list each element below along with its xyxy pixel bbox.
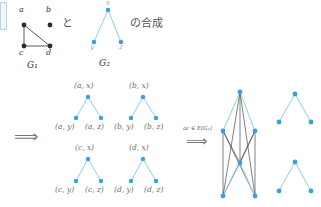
- copy-b-top-label: (b, x): [129, 82, 149, 90]
- copy-a-right-label: (a, z): [85, 123, 104, 131]
- result-vertex-dz: [309, 189, 314, 194]
- g1-label-b: b: [46, 6, 51, 14]
- caption-composition: の合成: [130, 18, 163, 29]
- result-graph: [221, 90, 314, 199]
- result-vertex-cz: [253, 194, 258, 199]
- g2-edge-x-z: [108, 10, 121, 42]
- copy-b-edge-x-z: [143, 97, 156, 118]
- result-d-edge-x-y: [279, 162, 295, 191]
- result-vertex-bx: [293, 92, 298, 97]
- g1-vertex-b: [48, 23, 53, 28]
- copy-a-top-label: (a, x): [74, 82, 93, 90]
- copy-c-vertex-x: [86, 157, 90, 161]
- copies-group: [74, 95, 158, 183]
- result-d-edge-x-z: [295, 162, 311, 191]
- result-vertex-dx: [293, 160, 298, 165]
- copy-c-right-label: (c, z): [85, 186, 104, 194]
- copy-c-vertex-z: [99, 179, 103, 183]
- result-a-edge-x-z: [240, 92, 255, 131]
- copy-c-left-label: (c, y): [55, 186, 74, 194]
- implication-arrow-left: ⟹: [14, 128, 38, 145]
- caption-conjunction: と: [62, 18, 73, 29]
- result-vertex-bz: [309, 120, 314, 125]
- result-copy-d: [277, 160, 314, 194]
- g1-name-label: G₁: [27, 61, 38, 70]
- g2-label-y: y: [90, 44, 94, 51]
- copy-a-vertex-x: [86, 95, 90, 99]
- copy-a-edge-x-y: [76, 97, 88, 118]
- copy-d-left-label: (d, y): [114, 186, 134, 194]
- result-vertex-by: [277, 120, 282, 125]
- result-copy-b: [277, 92, 314, 125]
- copy-b-vertex-x: [141, 95, 145, 99]
- copy-b-vertex-z: [154, 116, 158, 120]
- result-vertex-cx: [238, 161, 243, 166]
- result-vertex-ay: [221, 129, 226, 134]
- copy-b-left-label: (b, y): [114, 123, 134, 131]
- copy-c: [74, 157, 103, 183]
- graph-g2: [92, 8, 124, 45]
- copy-b-edge-x-y: [131, 97, 143, 118]
- copy-a-left-label: (a, y): [55, 123, 74, 131]
- copy-d-vertex-y: [129, 179, 133, 183]
- copy-b: [129, 95, 158, 120]
- copy-d-vertex-x: [141, 157, 145, 161]
- result-vertex-ax: [238, 90, 243, 95]
- copy-d-right-label: (d, z): [144, 186, 163, 194]
- result-vertex-az: [253, 129, 258, 134]
- copy-c-edge-x-z: [88, 159, 101, 181]
- g1-label-c: c: [19, 49, 23, 57]
- g1-edge-a-d: [24, 25, 50, 46]
- result-b-edge-x-z: [295, 94, 311, 122]
- g2-name-label: G₂: [99, 59, 110, 68]
- figure-graphics: [0, 0, 321, 207]
- copy-b-right-label: (b, z): [144, 123, 163, 131]
- g2-vertex-x: [106, 8, 111, 13]
- copy-a: [74, 95, 103, 120]
- copy-d-vertex-z: [154, 179, 158, 183]
- result-vertex-cy: [221, 194, 226, 199]
- result-join-edges: [223, 92, 255, 196]
- copy-a-vertex-z: [99, 116, 103, 120]
- g1-vertex-a: [22, 23, 27, 28]
- implication-arrow-right: ⟹: [186, 134, 208, 149]
- copy-d-top-label: (d, x): [129, 144, 149, 152]
- g1-label-d: d: [46, 49, 51, 57]
- copy-c-edge-x-y: [76, 159, 88, 181]
- g2-label-x: x: [106, 0, 110, 7]
- result-b-edge-x-y: [279, 94, 295, 122]
- g1-label-a: a: [19, 6, 24, 14]
- copy-a-vertex-y: [74, 116, 78, 120]
- copy-d-edge-x-z: [143, 159, 156, 181]
- result-vertex-dy: [277, 189, 282, 194]
- result-a-edge-x-y: [223, 92, 240, 131]
- copy-b-vertex-y: [129, 116, 133, 120]
- g2-edge-x-y: [94, 10, 108, 42]
- copy-c-top-label: (c, x): [75, 144, 94, 152]
- figure-canvas: a b c d G₁ x y z G₂ と の合成 ⟹ ac ∈ E(G₁) ⟹…: [0, 0, 321, 207]
- copy-c-vertex-y: [74, 179, 78, 183]
- g2-label-z: z: [119, 44, 123, 51]
- copy-d: [129, 157, 158, 183]
- copy-a-edge-x-z: [88, 97, 101, 118]
- graph-g1: [22, 23, 53, 49]
- copy-d-edge-x-y: [131, 159, 143, 181]
- condition-label: ac ∈ E(G₁): [183, 126, 212, 132]
